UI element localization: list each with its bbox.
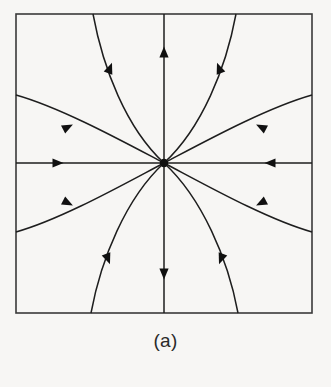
figure-container: (a) (0, 0, 331, 387)
figure-caption: (a) (0, 329, 331, 353)
fixed-point-marker (160, 159, 168, 167)
